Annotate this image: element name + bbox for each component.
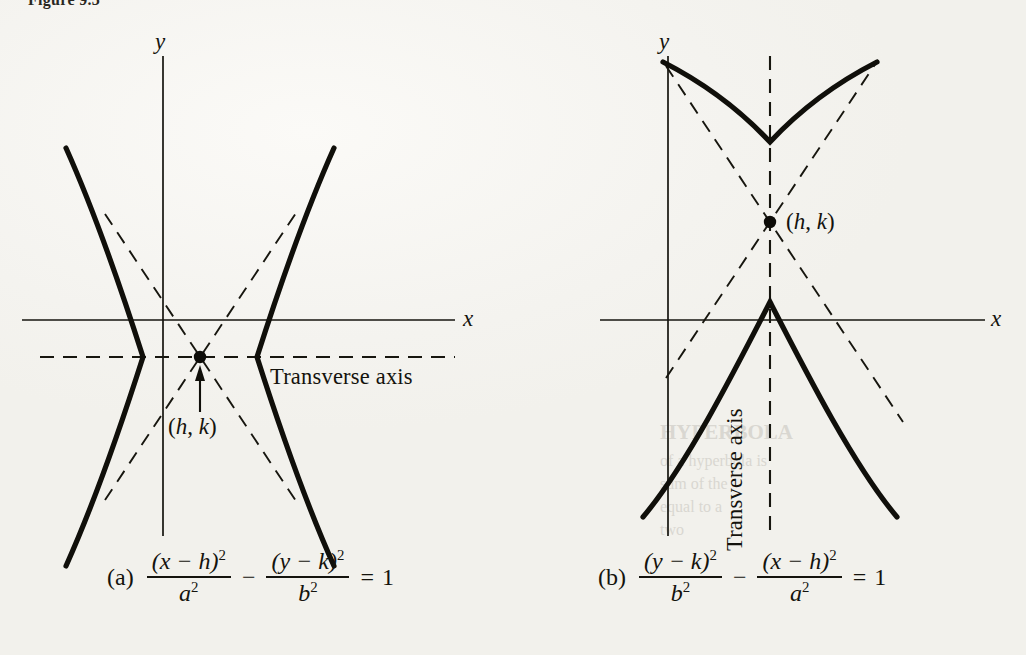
- panel-a-fraction-2: (y − k)2 b2: [266, 548, 349, 607]
- panel-b-num1-exponent: 2: [709, 547, 716, 563]
- panel-a-num2-text: (y − k): [271, 548, 336, 574]
- panel-a-center-comma: ,: [187, 414, 199, 439]
- panel-a-den1-exponent: 2: [191, 579, 198, 595]
- panel-a-num1-text: (x − h): [152, 548, 219, 574]
- panel-a-caption: (a) (x − h)2 a2 − (y − k)2 b2 = 1: [107, 548, 394, 607]
- panel-a-fraction-1: (x − h)2 a2: [147, 548, 231, 607]
- panel-a-center-arrow-head: [195, 365, 205, 381]
- panel-b-transverse-axis-label: Transverse axis: [722, 408, 748, 551]
- panel-a-den2-exponent: 2: [310, 579, 317, 595]
- panel-b-center-comma: ,: [805, 209, 817, 234]
- panel-b-den1-text: b: [671, 580, 683, 606]
- panel-a-numerator-1: (x − h)2: [147, 548, 231, 576]
- panel-a-transverse-axis-label: Transverse axis: [270, 364, 413, 390]
- panel-a-den2-text: b: [298, 580, 310, 606]
- panel-a-caption-tag: (a): [107, 564, 134, 591]
- panel-a-den1-text: a: [179, 580, 191, 606]
- panel-a-denominator-2: b2: [266, 576, 349, 607]
- panel-b-caption: (b) (y − k)2 b2 − (x − h)2 a2 = 1: [598, 548, 886, 607]
- panel-b-center-paren-open: (: [786, 209, 794, 234]
- panel-a-equation-operator: −: [242, 564, 256, 591]
- panel-a-num2-exponent: 2: [337, 547, 344, 563]
- panel-b-asymptote-negative: [666, 66, 903, 422]
- panel-a-graph: [22, 56, 455, 566]
- panel-b-den2-text: a: [790, 580, 802, 606]
- panel-b-den1-exponent: 2: [683, 579, 690, 595]
- panel-b-center-label: (h, k): [786, 209, 835, 235]
- panel-a-x-axis-label: x: [463, 306, 473, 332]
- figure-page: HYPERBOLA of a hyperbola is sum of the e…: [0, 0, 1026, 655]
- panel-b-num2-text: (x − h): [762, 548, 829, 574]
- panel-b-center-k: k: [817, 209, 827, 234]
- panel-b-equals-sign: =: [853, 564, 867, 591]
- panel-b-fraction-2: (x − h)2 a2: [757, 548, 841, 607]
- panel-a-num1-exponent: 2: [218, 547, 225, 563]
- panel-a-denominator-1: a2: [147, 576, 231, 607]
- panel-b-x-axis-label: x: [991, 306, 1001, 332]
- panel-b-num1-text: (y − k): [644, 548, 709, 574]
- panel-b-graph: [600, 56, 985, 536]
- panel-b-right-hand-side: 1: [874, 564, 886, 591]
- panel-a-left-branch: [66, 148, 143, 566]
- panel-a-center-k: k: [199, 414, 209, 439]
- panel-a-center-paren-open: (: [168, 414, 176, 439]
- panel-b-numerator-1: (y − k)2: [639, 548, 722, 576]
- panel-b-denominator-2: a2: [757, 576, 841, 607]
- panel-a-equals-sign: =: [360, 564, 374, 591]
- panel-a-center-point: [194, 351, 206, 363]
- panel-b-denominator-1: b2: [639, 576, 722, 607]
- panel-b-center-h: h: [794, 209, 806, 234]
- panel-b-fraction-1: (y − k)2 b2: [639, 548, 722, 607]
- panel-b-center-paren-close: ): [827, 209, 835, 234]
- panel-a-right-hand-side: 1: [382, 564, 394, 591]
- panel-b-equation-operator: −: [733, 564, 747, 591]
- panel-b-den2-exponent: 2: [802, 579, 809, 595]
- panel-a-center-label: (h, k): [168, 414, 217, 440]
- panel-a-center-paren-close: ): [209, 414, 217, 439]
- panel-b-num2-exponent: 2: [829, 547, 836, 563]
- panel-a-center-h: h: [176, 414, 188, 439]
- panel-b-y-axis-label: y: [659, 29, 669, 55]
- panel-b-caption-tag: (b): [598, 564, 626, 591]
- panel-a-y-axis-label: y: [155, 29, 165, 55]
- panel-b-center-point: [764, 216, 776, 228]
- panel-a-numerator-2: (y − k)2: [266, 548, 349, 576]
- panel-b-numerator-2: (x − h)2: [757, 548, 841, 576]
